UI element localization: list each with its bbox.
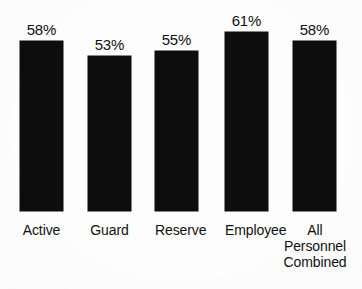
bar-category-label-all-personnel-combined: All Personnel Combined — [282, 222, 348, 270]
bar-category-line: Reserve — [155, 222, 198, 238]
bar-value-label: 58% — [293, 22, 336, 37]
bar-group-active: 58% Active — [20, 0, 63, 289]
bar-chart-figure: 58% Active 53% Guard 55% Reserve 61% — [0, 0, 362, 289]
bar-category-line: Personnel — [282, 238, 348, 254]
bar-category-line: Guard — [88, 222, 131, 238]
bar-category-label-active: Active — [20, 222, 63, 238]
bar-category-line: Active — [20, 222, 63, 238]
bar-category-line: All — [282, 222, 348, 238]
bar-value-label: 61% — [225, 13, 268, 28]
bar-group-guard: 53% Guard — [88, 0, 131, 289]
bar-employee — [225, 32, 268, 211]
bar-group-reserve: 55% Reserve — [155, 0, 198, 289]
bar-category-label-employee: Employee — [225, 222, 268, 238]
bar-all-personnel-combined — [293, 41, 336, 211]
bar-category-label-reserve: Reserve — [155, 222, 198, 238]
bar-reserve — [155, 51, 198, 211]
bar-value-label: 53% — [88, 37, 131, 52]
bar-category-label-guard: Guard — [88, 222, 131, 238]
bar-value-label: 58% — [20, 22, 63, 37]
bar-guard — [88, 56, 131, 211]
bar-active — [20, 41, 63, 211]
bar-group-employee: 61% Employee — [225, 0, 268, 289]
bar-category-line: Employee — [225, 222, 268, 238]
bar-group-all-personnel-combined: 58% All Personnel Combined — [293, 0, 336, 289]
bar-category-line: Combined — [282, 254, 348, 270]
plot-area: 58% Active 53% Guard 55% Reserve 61% — [0, 0, 362, 289]
bar-value-label: 55% — [155, 32, 198, 47]
